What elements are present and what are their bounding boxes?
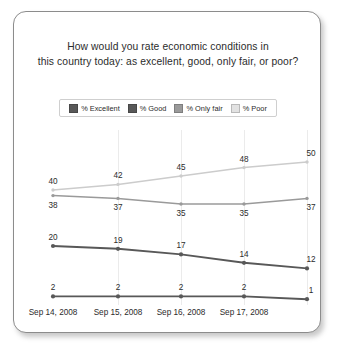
- legend-item-good[interactable]: % Good: [128, 104, 167, 113]
- data-point[interactable]: [116, 197, 119, 200]
- data-label: 35: [239, 209, 248, 218]
- legend-label-only-fair: % Only fair: [186, 104, 222, 113]
- data-point[interactable]: [242, 261, 246, 265]
- chart-title-line-2: this country today: as excellent, good, …: [14, 54, 322, 69]
- legend-label-excellent: % Excellent: [81, 104, 120, 113]
- data-point[interactable]: [305, 297, 309, 301]
- data-label: 20: [48, 233, 57, 242]
- legend-item-poor[interactable]: % Poor: [231, 104, 267, 113]
- x-axis-label: Sep 17, 2008: [220, 308, 269, 317]
- data-point[interactable]: [242, 294, 246, 298]
- data-point[interactable]: [179, 294, 183, 298]
- data-label: 19: [113, 236, 122, 245]
- chart-svg: [14, 130, 322, 305]
- x-axis-label: Sep 16, 2008: [157, 308, 206, 317]
- chart-screenshot: How would you rate economic conditions i…: [0, 0, 338, 356]
- chart-card: How would you rate economic conditions i…: [13, 11, 321, 333]
- data-point[interactable]: [305, 160, 308, 163]
- data-point[interactable]: [305, 266, 309, 270]
- data-point[interactable]: [116, 183, 119, 186]
- data-label: 37: [113, 203, 122, 212]
- data-label: 45: [176, 163, 185, 172]
- data-point[interactable]: [51, 194, 54, 197]
- data-label: 2: [179, 283, 184, 292]
- data-label: 48: [239, 155, 248, 164]
- legend-swatch-only-fair: [174, 104, 183, 113]
- legend-label-poor: % Poor: [243, 104, 267, 113]
- data-label: 40: [48, 177, 57, 186]
- chart-title: How would you rate economic conditions i…: [14, 39, 322, 69]
- data-label: 2: [51, 283, 56, 292]
- data-label: 14: [239, 250, 248, 259]
- data-label: 2: [242, 283, 247, 292]
- legend-swatch-excellent: [69, 104, 78, 113]
- legend-label-good: % Good: [140, 104, 167, 113]
- data-label: 50: [306, 149, 315, 158]
- x-axis-label: Sep 15, 2008: [94, 308, 143, 317]
- data-label: 35: [176, 209, 185, 218]
- x-axis-label: Sep 14, 2008: [29, 308, 78, 317]
- chart-title-line-1: How would you rate economic conditions i…: [67, 41, 269, 52]
- legend-swatch-poor: [231, 104, 240, 113]
- data-point[interactable]: [51, 294, 55, 298]
- data-label: 1: [309, 286, 314, 295]
- legend-swatch-good: [128, 104, 137, 113]
- data-label: 42: [113, 171, 122, 180]
- data-point[interactable]: [179, 174, 182, 177]
- data-label: 37: [306, 203, 315, 212]
- data-point[interactable]: [179, 252, 183, 256]
- data-label: 38: [48, 201, 57, 210]
- legend-item-excellent[interactable]: % Excellent: [69, 104, 120, 113]
- chart-legend: % Excellent % Good % Only fair % Poor: [59, 99, 277, 117]
- data-point[interactable]: [116, 247, 120, 251]
- chart-plot-area: 22221201917141238373535374042454850: [14, 130, 322, 305]
- data-label: 2: [116, 283, 121, 292]
- data-point[interactable]: [242, 202, 245, 205]
- legend-item-only-fair[interactable]: % Only fair: [174, 104, 222, 113]
- data-point[interactable]: [51, 188, 54, 191]
- data-point[interactable]: [51, 244, 55, 248]
- x-axis: Sep 14, 2008Sep 15, 2008Sep 16, 2008Sep …: [14, 308, 322, 324]
- data-point[interactable]: [179, 202, 182, 205]
- data-point[interactable]: [242, 166, 245, 169]
- data-point[interactable]: [116, 294, 120, 298]
- data-point[interactable]: [305, 197, 308, 200]
- data-label: 17: [176, 241, 185, 250]
- data-label: 12: [306, 255, 315, 264]
